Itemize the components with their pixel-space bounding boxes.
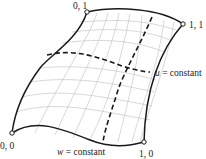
corner-point-00 — [10, 131, 14, 135]
boundary-top — [87, 9, 183, 24]
u-constant-label: u = constant — [155, 68, 202, 78]
corner-point-11 — [181, 22, 185, 26]
w-constant-curve — [47, 53, 150, 72]
corner-label-10: 1, 0 — [139, 149, 154, 159]
corner-label-11: 1, 1 — [189, 20, 204, 30]
corner-label-00: 0, 0 — [0, 141, 15, 151]
grid-lines-w-direction — [16, 20, 176, 120]
corner-point-10 — [142, 140, 146, 144]
boundary-left — [12, 12, 87, 133]
w-constant-label: w = constant — [57, 147, 105, 157]
corner-label-01: 0, 1 — [73, 1, 88, 11]
boundary-bottom — [12, 125, 144, 145]
surface-patch-diagram: 0, 0 0, 1 1, 1 1, 0 u = constant w = con… — [0, 0, 206, 159]
